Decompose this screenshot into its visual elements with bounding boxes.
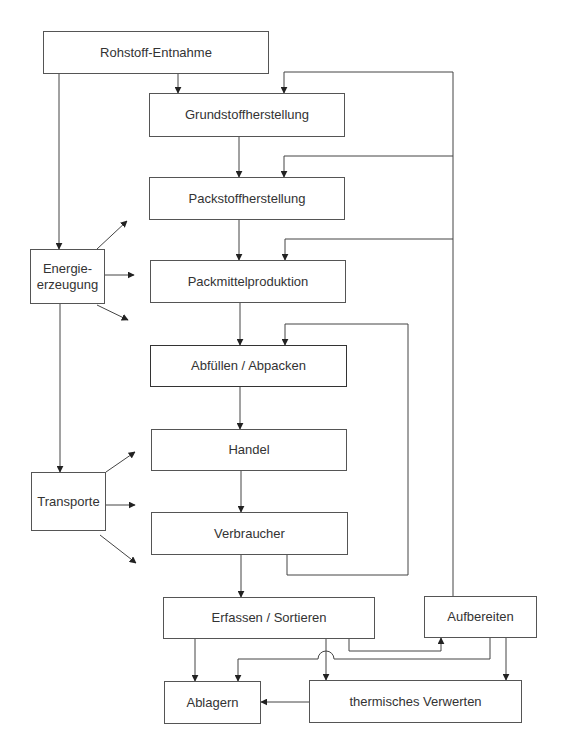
node-rohstoff-entnahme: Rohstoff-Entnahme	[43, 31, 269, 74]
node-label: Handel	[228, 442, 269, 458]
node-label: Rohstoff-Entnahme	[100, 45, 212, 61]
node-verbraucher: Verbraucher	[151, 512, 348, 555]
node-packmittelproduktion: Packmittelproduktion	[150, 260, 346, 303]
node-label-line1: Energie-	[43, 261, 92, 277]
node-handel: Handel	[151, 429, 347, 471]
node-label: Transporte	[37, 494, 99, 510]
node-erfassen-sortieren: Erfassen / Sortieren	[163, 597, 375, 639]
node-label-line2: erzeugung	[37, 277, 98, 293]
node-label: thermisches Verwerten	[349, 694, 481, 710]
node-label: Abfüllen / Abpacken	[191, 358, 306, 374]
node-transporte: Transporte	[31, 472, 106, 531]
node-abfuellen-abpacken: Abfüllen / Abpacken	[150, 345, 347, 387]
node-ablagern: Ablagern	[164, 681, 261, 724]
node-thermisches-verwerten: thermisches Verwerten	[309, 680, 522, 723]
node-aufbereiten: Aufbereiten	[424, 596, 537, 638]
node-label: Grundstoffherstellung	[185, 107, 309, 123]
node-label: Packmittelproduktion	[188, 274, 309, 290]
node-packstoffherstellung: Packstoffherstellung	[149, 177, 345, 220]
node-energieerzeugung: Energie- erzeugung	[30, 249, 105, 304]
node-label: Packstoffherstellung	[189, 191, 306, 207]
node-label: Erfassen / Sortieren	[212, 610, 327, 626]
node-grundstoffherstellung: Grundstoffherstellung	[149, 93, 345, 137]
node-label: Verbraucher	[214, 526, 285, 542]
node-label: Ablagern	[186, 695, 238, 711]
node-label: Aufbereiten	[447, 609, 514, 625]
